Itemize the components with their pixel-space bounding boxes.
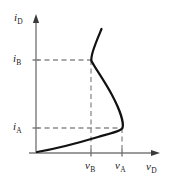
iv-curve bbox=[37, 29, 123, 152]
y-tick-label-ib: iB bbox=[13, 53, 21, 64]
x-tick-label-vb: vB bbox=[85, 160, 95, 171]
x-tick-va-subscript: A bbox=[120, 165, 125, 174]
y-tick-ib-subscript: B bbox=[16, 58, 21, 67]
x-axis-subscript: D bbox=[151, 166, 156, 175]
diode-iv-characteristic-figure: iD iB iA vB vA vD bbox=[0, 0, 171, 185]
x-tick-vb-subscript: B bbox=[90, 165, 95, 174]
y-axis-label: iD bbox=[14, 12, 22, 23]
x-axis-label: vD bbox=[146, 161, 156, 172]
x-tick-label-va: vA bbox=[115, 160, 125, 171]
y-axis-arrow-icon bbox=[33, 14, 39, 23]
y-tick-ia-subscript: A bbox=[16, 126, 21, 135]
plot-canvas bbox=[0, 0, 171, 185]
y-tick-label-ia: iA bbox=[13, 121, 21, 132]
y-axis-subscript: D bbox=[17, 17, 22, 26]
x-axis-arrow-icon bbox=[151, 150, 160, 156]
